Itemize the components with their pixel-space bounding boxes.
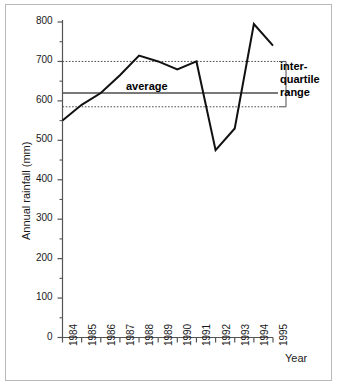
x-tick-label-1989: 1989 [163, 324, 174, 346]
y-tick-label-600: 600 [23, 94, 53, 105]
y-tick-label-100: 100 [23, 291, 53, 302]
y-axis-title: Annual rainfall (mm) [20, 142, 32, 240]
iqr-label-line-1: inter- [280, 60, 320, 73]
rainfall-data-line [63, 24, 274, 150]
y-tick-label-700: 700 [23, 54, 53, 65]
iqr-label-line-3: range [280, 86, 320, 99]
x-tick-label-1986: 1986 [106, 324, 117, 346]
iqr-label-line-2: quartile [280, 73, 320, 86]
x-tick-label-1992: 1992 [221, 324, 232, 346]
interquartile-range-annotation-label: inter- quartile range [280, 60, 320, 99]
y-tick-label-800: 800 [23, 15, 53, 26]
x-tick-label-1995: 1995 [278, 324, 289, 346]
chart-figure: 0100200300400500600700800 19841985198619… [0, 0, 337, 390]
x-axis-title: Year [285, 352, 307, 364]
x-tick-label-1985: 1985 [87, 324, 98, 346]
x-tick-label-1990: 1990 [182, 324, 193, 346]
y-axis-major-ticks [58, 22, 63, 338]
x-tick-label-1988: 1988 [144, 324, 155, 346]
x-tick-label-1984: 1984 [68, 324, 79, 346]
x-tick-label-1987: 1987 [125, 324, 136, 346]
average-annotation-label: average [126, 80, 168, 93]
y-tick-label-200: 200 [23, 252, 53, 263]
x-tick-label-1991: 1991 [201, 324, 212, 346]
y-tick-label-0: 0 [23, 331, 53, 342]
x-tick-label-1994: 1994 [259, 324, 270, 346]
x-tick-label-1993: 1993 [240, 324, 251, 346]
